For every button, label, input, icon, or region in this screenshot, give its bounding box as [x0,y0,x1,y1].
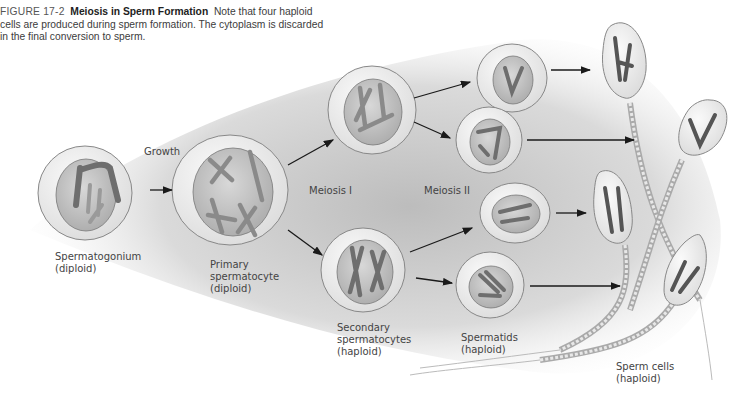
label-sperm-cells: Sperm cells (haploid) [616,361,674,385]
spermatogonium-cell [38,146,132,240]
label-meiosis-2: Meiosis II [424,185,470,197]
label-growth: Growth [144,146,180,158]
secondary-spermatocyte-bottom [321,228,405,312]
spermatid-2 [456,107,522,173]
spermatid-4 [456,252,524,318]
primary-spermatocyte-cell [172,135,288,245]
secondary-spermatocyte-top [328,66,416,154]
sperm-cell-2 [679,100,727,155]
label-spermatids: Spermatids (haploid) [461,332,518,356]
spermatid-3 [480,183,550,243]
label-meiosis-1: Meiosis I [309,185,352,197]
label-primary-spermatocyte: Primary spermatocyte (diploid) [210,259,279,295]
spermatid-1 [477,44,547,112]
label-spermatogonium: Spermatogonium (diploid) [55,251,141,275]
label-secondary-spermatocytes: Secondary spermatocytes (haploid) [337,322,411,358]
